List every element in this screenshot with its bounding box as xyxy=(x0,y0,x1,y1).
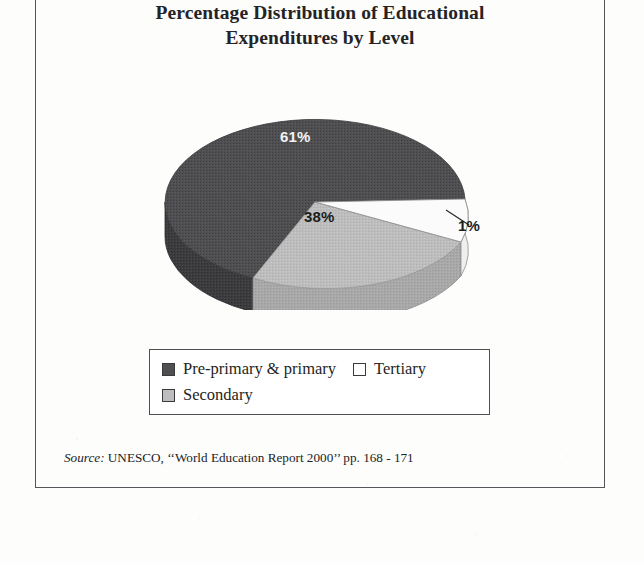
legend-item-pre-primary: Pre-primary & primary xyxy=(162,361,336,378)
chart-title-line-2: Expenditures by Level xyxy=(70,25,570,50)
pie-chart: 61% 38% 1% xyxy=(158,95,488,310)
pie-value-label-secondary: 38% xyxy=(304,208,335,225)
legend-row-1: Pre-primary & primary Tertiary xyxy=(162,356,489,382)
legend-row-2: Secondary xyxy=(162,382,489,408)
legend-label-pre-primary: Pre-primary & primary xyxy=(183,361,336,378)
source-label: Source: xyxy=(64,450,105,465)
legend-swatch-tertiary-icon xyxy=(353,363,366,376)
chart-title: Percentage Distribution of Educational E… xyxy=(70,0,570,50)
chart-title-line-1: Percentage Distribution of Educational xyxy=(70,0,570,25)
legend-item-tertiary: Tertiary xyxy=(353,361,426,378)
legend-swatch-pre-primary-icon xyxy=(162,363,175,376)
pie-value-label-pre-primary: 61% xyxy=(280,128,311,145)
legend-item-secondary: Secondary xyxy=(162,387,253,404)
source-text: UNESCO, ‘‘World Education Report 2000’’ … xyxy=(108,450,414,465)
legend-label-tertiary: Tertiary xyxy=(374,361,426,378)
pie-chart-svg xyxy=(158,95,488,310)
pie-value-label-tertiary: 1% xyxy=(458,217,480,234)
legend-label-secondary: Secondary xyxy=(183,387,253,404)
chart-legend: Pre-primary & primary Tertiary Secondary xyxy=(149,349,490,415)
legend-swatch-secondary-icon xyxy=(162,389,175,402)
source-note: Source: UNESCO, ‘‘World Education Report… xyxy=(64,450,584,466)
